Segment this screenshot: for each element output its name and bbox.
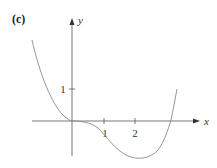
y-axis-arrow-icon <box>70 18 75 25</box>
y-ticks: 1 <box>60 83 75 95</box>
y-tick-1: 1 <box>60 83 66 95</box>
panel-label: (c) <box>12 12 25 27</box>
y-axis-label: y <box>77 14 83 26</box>
x-axis: x <box>32 115 209 127</box>
y-axis: y <box>70 14 84 156</box>
x-axis-arrow-icon <box>193 119 200 124</box>
function-curve <box>32 40 177 158</box>
x-tick-2: 2 <box>132 127 138 139</box>
figure: (c) x y 1 2 1 <box>0 0 217 168</box>
plot-area: x y 1 2 1 <box>0 0 217 168</box>
x-axis-label: x <box>203 115 209 127</box>
